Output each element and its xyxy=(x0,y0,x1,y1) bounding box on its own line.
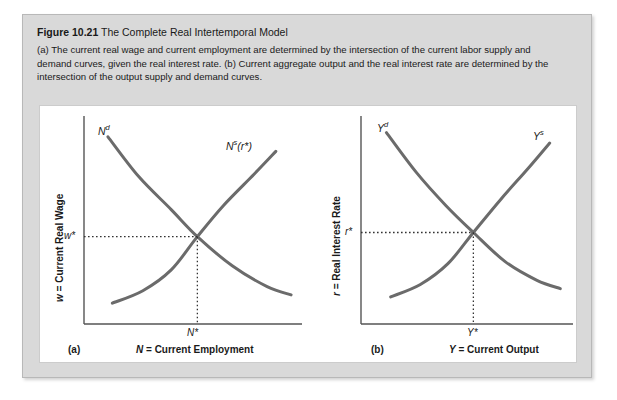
figure-title-text: The Complete Real Intertemporal Model xyxy=(101,26,288,38)
y-axis-text-a: = Current Real Wage xyxy=(54,194,65,292)
x-axis-label-b: Y = Current Output xyxy=(449,344,539,355)
figure-title: Figure 10.21 The Complete Real Intertemp… xyxy=(37,25,577,39)
x-axis-text-b: = Current Output xyxy=(458,344,538,355)
curve-label-labor-supply: Ns(r*) xyxy=(226,138,252,152)
figure-card: Figure 10.21 The Complete Real Intertemp… xyxy=(22,14,592,378)
curve-label-labor-demand: Nd xyxy=(98,123,110,137)
figure-caption-block: Figure 10.21 The Complete Real Intertemp… xyxy=(37,25,577,84)
chart-panel-a: w = Current Real Wage N = Current Employ… xyxy=(40,106,309,364)
curve-label-base-nd: N xyxy=(98,125,106,137)
y-axis-label-b: r = Real Interest Rate xyxy=(331,196,342,296)
curve-label-output-supply: Ys xyxy=(533,128,544,142)
x-tick-label-equilibrium-b: Y* xyxy=(467,327,478,338)
x-axis-symbol-b: Y xyxy=(449,344,456,355)
figure-description: (a) The current real wage and current em… xyxy=(37,43,565,84)
chart-panel-b: r = Real Interest Rate Y = Current Outpu… xyxy=(309,106,578,364)
y-axis-symbol-a: w xyxy=(54,294,65,302)
curve-labor-demand xyxy=(108,137,291,295)
curve-label-output-demand: Yd xyxy=(377,120,388,134)
x-axis-label-a: N = Current Employment xyxy=(136,344,254,355)
curve-label-base-ys: Y xyxy=(533,130,540,142)
x-axis-symbol-a: N xyxy=(136,344,143,355)
curve-label-base-ns: N xyxy=(226,140,234,152)
panel-tag-b: (b) xyxy=(371,344,384,355)
y-tick-label-equilibrium-b: r* xyxy=(345,226,352,237)
curve-label-sup-ys: s xyxy=(540,128,544,137)
plot-area: w = Current Real Wage N = Current Employ… xyxy=(39,105,577,363)
panel-a-svg xyxy=(40,106,309,364)
y-tick-label-equilibrium-a: w* xyxy=(64,230,75,241)
x-tick-label-equilibrium-a: N* xyxy=(187,327,198,338)
y-axis-text-b: = Real Interest Rate xyxy=(331,196,342,289)
curve-label-sup-yd: d xyxy=(384,120,388,129)
figure-number: Figure 10.21 xyxy=(37,26,98,38)
y-axis-label-a: w = Current Real Wage xyxy=(54,194,65,302)
x-axis-text-a: = Current Employment xyxy=(146,344,254,355)
curve-label-sup-nd: d xyxy=(106,123,110,132)
curve-label-base-yd: Y xyxy=(377,122,384,134)
y-axis-symbol-b: r xyxy=(331,292,342,296)
curve-label-suffix-ns: (r*) xyxy=(237,140,252,152)
panel-tag-a: (a) xyxy=(68,344,80,355)
